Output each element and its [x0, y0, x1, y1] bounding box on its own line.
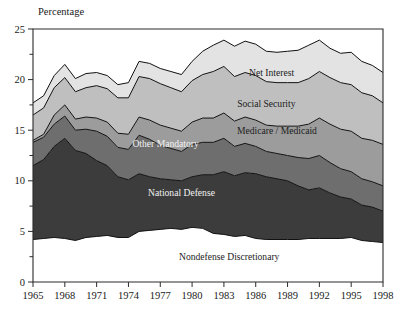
y-tick-label: 5 — [20, 226, 25, 237]
y-tick-label: 10 — [15, 175, 26, 186]
series-label-nondefense-discretionary: Nondefense Discretionary — [179, 251, 280, 262]
x-tick-label: 1998 — [373, 290, 394, 301]
y-axis-title: Percentage — [38, 6, 84, 17]
y-tick-label: 0 — [20, 277, 25, 288]
x-tick-label: 1995 — [341, 290, 362, 301]
series-label-medicare-medicaid: Medicare / Medicaid — [237, 125, 317, 136]
x-tick-label: 1983 — [213, 290, 234, 301]
area-bands-group — [33, 40, 383, 282]
chart-container: 0510152025 19651968197119741977198019831… — [0, 0, 402, 317]
x-tick-label: 1992 — [309, 290, 330, 301]
series-label-net-interest: Net Interest — [249, 67, 294, 78]
x-tick-label: 1971 — [86, 290, 107, 301]
x-tick-label: 1986 — [245, 290, 266, 301]
series-label-social-security: Social Security — [237, 98, 296, 109]
stacked-area-chart: 0510152025 19651968197119741977198019831… — [0, 0, 402, 317]
x-tick-label: 1965 — [23, 290, 44, 301]
series-label-other-mandatory: Other Mandatory — [132, 138, 199, 149]
y-tick-label: 20 — [15, 74, 26, 85]
x-tick-label: 1974 — [118, 290, 140, 301]
x-tick-label: 1980 — [182, 290, 203, 301]
y-tick-label: 25 — [15, 24, 26, 35]
x-tick-label: 1989 — [277, 290, 298, 301]
x-tick-label: 1977 — [150, 290, 171, 301]
y-tick-label: 15 — [15, 125, 26, 136]
series-label-national-defense: National Defense — [148, 187, 215, 198]
x-tick-label: 1968 — [54, 290, 75, 301]
